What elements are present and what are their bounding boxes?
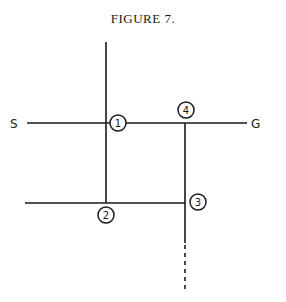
node-1: 1 xyxy=(110,115,126,131)
figure-canvas: FIGURE 7. S G 1 2 3 xyxy=(0,0,286,302)
start-label: S xyxy=(10,117,18,131)
node-2: 2 xyxy=(98,207,114,223)
node-label: 1 xyxy=(115,118,121,129)
node-3: 3 xyxy=(190,194,206,210)
node-label: 4 xyxy=(183,105,189,116)
node-label: 2 xyxy=(103,210,109,221)
node-4: 4 xyxy=(178,102,194,118)
maze-diagram: S G 1 2 3 4 xyxy=(0,0,286,302)
node-label: 3 xyxy=(195,197,201,208)
goal-label: G xyxy=(251,117,260,131)
